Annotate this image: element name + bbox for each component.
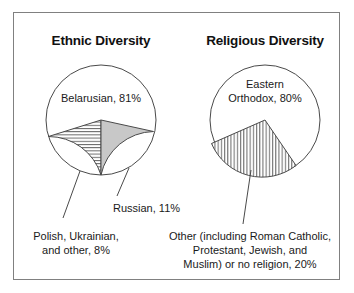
chart-title-ethnic: Ethnic Diversity (52, 33, 152, 48)
pie-callout-russian: Russian, 11% (113, 202, 180, 214)
chart-canvas: Ethnic Diversity Belarusian, 81% Polish,… (0, 0, 354, 293)
chart-ethnic-diversity: Ethnic Diversity Belarusian, 81% Polish,… (33, 33, 180, 256)
leader-line-polish-ukrainian-other (63, 171, 80, 218)
chart-title-religious: Religious Diversity (206, 33, 324, 48)
pie-label-belarusian: Belarusian, 81% (61, 92, 141, 104)
pie-callout-polish-line2: and other, 8% (42, 244, 110, 256)
pie-label-eastern-orthodox-line2: Orthodox, 80% (228, 92, 302, 104)
pie-callout-other-line2: Protestant, Jewish, and (193, 244, 307, 256)
pie-callout-polish-line1: Polish, Ukrainian, (33, 230, 119, 242)
leader-line-other-religions (243, 170, 251, 224)
pie-label-eastern-orthodox-line1: Eastern (246, 78, 284, 90)
chart-religious-diversity: Religious Diversity Eastern Orthodox, 80… (169, 33, 331, 270)
pie-callout-other-line3: Muslim) or no religion, 20% (183, 258, 316, 270)
pie-chart-figure: Ethnic Diversity Belarusian, 81% Polish,… (0, 0, 354, 293)
pie-callout-other-line1: Other (including Roman Catholic, (169, 230, 331, 242)
